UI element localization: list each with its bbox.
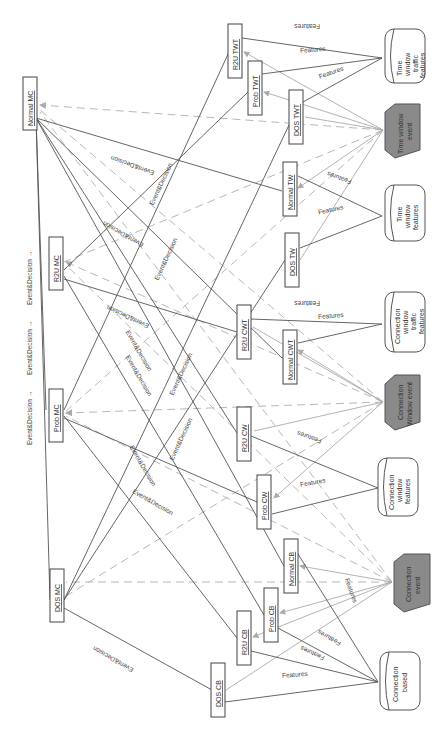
svg-text:Event&Decision: Event&Decision xyxy=(105,304,150,330)
svg-text:Features: Features xyxy=(300,45,327,54)
svg-text:Features: Features xyxy=(298,644,325,662)
clf-prob-cb: Prob CB xyxy=(264,588,278,642)
clf-r2u-cwt: R2U CWT xyxy=(237,305,251,359)
svg-text:based: based xyxy=(401,673,408,692)
clf-prob-cw: Prob CW xyxy=(257,475,271,529)
clf-r2u-cw: R2U CW xyxy=(237,407,251,461)
svg-text:Connection: Connection xyxy=(392,666,399,702)
svg-text:Prob TWT: Prob TWT xyxy=(252,75,259,107)
svg-text:R2U CB: R2U CB xyxy=(241,629,248,655)
svg-text:Connection: Connection xyxy=(394,308,401,344)
source-databases: Time window traffic features Time window… xyxy=(378,26,430,710)
svg-text:Normal TW: Normal TW xyxy=(287,174,294,210)
event-to-classifier-lines xyxy=(226,52,392,690)
mc-r2u: R2U MC xyxy=(49,237,63,290)
clf-normal-cb: Normal CB xyxy=(284,539,298,593)
db-time-window-traffic-features: Time window traffic features xyxy=(384,26,429,86)
clf-r2u-twt: R2U TWT xyxy=(228,24,242,78)
svg-text:→: → xyxy=(26,321,33,328)
clf-dos-twt: DOS TWT xyxy=(289,90,303,144)
clf-normal-cwt: Normal CWT xyxy=(283,330,297,384)
classifiers: R2U TWT Prob TWT DOS TWT Normal TW DOS T… xyxy=(211,24,303,717)
svg-text:→: → xyxy=(26,251,33,258)
svg-text:Event&Decision: Event&Decision xyxy=(153,236,179,281)
svg-text:Event&Decision: Event&Decision xyxy=(26,259,33,305)
svg-text:Time window: Time window xyxy=(397,112,404,154)
svg-text:Connection: Connection xyxy=(388,474,395,510)
hex-connection-event: Connection event xyxy=(394,554,430,612)
svg-text:Event&Decision: Event&Decision xyxy=(101,220,145,249)
svg-text:DOS TW: DOS TW xyxy=(289,248,296,276)
ids-architecture-diagram: Features Features Features Features Feat… xyxy=(0,0,445,736)
svg-text:Event&Decision: Event&Decision xyxy=(132,487,176,516)
svg-text:Connection: Connection xyxy=(405,566,412,602)
decision-edge-labels: Event&Decision Event&Decision Event&Deci… xyxy=(91,154,194,673)
svg-text:Features: Features xyxy=(325,170,352,186)
mc-normal: Normal MC xyxy=(23,77,37,130)
svg-text:event: event xyxy=(414,577,421,594)
svg-text:Features: Features xyxy=(282,670,309,679)
svg-text:Event&Decision: Event&Decision xyxy=(109,154,155,176)
svg-text:Connection: Connection xyxy=(397,384,404,420)
svg-text:Event&Decision: Event&Decision xyxy=(129,444,158,488)
svg-text:Prob CB: Prob CB xyxy=(268,605,275,632)
svg-text:Normal CWT: Normal CWT xyxy=(287,339,294,380)
svg-text:Normal CB: Normal CB xyxy=(288,551,295,586)
db-connection-based: Connection based xyxy=(380,652,420,710)
svg-text:window: window xyxy=(396,478,403,503)
svg-text:R2U TWT: R2U TWT xyxy=(232,38,239,70)
svg-text:features: features xyxy=(419,52,426,78)
svg-text:traffic: traffic xyxy=(410,313,417,330)
clf-dos-cb: DOS CB xyxy=(211,663,225,717)
svg-text:features: features xyxy=(404,478,411,504)
svg-text:R2U CW: R2U CW xyxy=(241,424,248,452)
svg-text:Prob CW: Prob CW xyxy=(261,491,268,520)
clf-r2u-cb: R2U CB xyxy=(237,611,251,665)
svg-text:Time: Time xyxy=(396,61,403,76)
clf-prob-twt: Prob TWT xyxy=(248,61,262,115)
svg-text:Event&Decision: Event&Decision xyxy=(26,399,33,445)
svg-text:DOS TWT: DOS TWT xyxy=(293,103,300,136)
svg-text:Features: Features xyxy=(317,203,344,215)
svg-text:features: features xyxy=(418,308,425,334)
db-time-window-features: Time window features xyxy=(385,185,425,241)
mc-prob: Prob MC xyxy=(49,389,63,442)
clf-normal-tw: Normal TW xyxy=(283,162,297,216)
svg-text:Features: Features xyxy=(318,64,345,80)
svg-text:DOS MC: DOS MC xyxy=(54,584,61,612)
svg-text:Features: Features xyxy=(294,23,320,30)
svg-text:Features: Features xyxy=(316,628,342,647)
legend-flow: Event&Decision → Event&Decision → Event&… xyxy=(26,251,33,446)
hex-time-window-event: Time window event xyxy=(385,104,420,158)
svg-text:→: → xyxy=(26,391,33,398)
svg-text:event: event xyxy=(406,123,413,140)
svg-text:Event&Decision: Event&Decision xyxy=(168,416,194,461)
svg-text:Event&Decision: Event&Decision xyxy=(91,645,135,674)
clf-dos-tw: DOS TW xyxy=(285,233,299,287)
svg-text:DOS CB: DOS CB xyxy=(215,680,222,707)
svg-text:Features: Features xyxy=(294,300,320,307)
svg-text:Normal MC: Normal MC xyxy=(27,91,34,126)
svg-text:Features: Features xyxy=(318,311,345,320)
svg-text:traffic: traffic xyxy=(412,55,419,72)
db-connection-window-features: Connection window features xyxy=(378,458,418,516)
svg-text:window: window xyxy=(402,310,409,335)
decision-lines xyxy=(36,52,289,690)
svg-text:features: features xyxy=(412,204,419,230)
svg-text:R2U CWT: R2U CWT xyxy=(241,318,248,351)
svg-text:Event&Decision: Event&Decision xyxy=(26,329,33,375)
hex-connection-window-event: Connection Window event xyxy=(385,375,420,430)
svg-text:Time: Time xyxy=(396,207,403,222)
svg-text:window: window xyxy=(404,52,411,77)
svg-text:R2U MC: R2U MC xyxy=(53,255,60,282)
svg-text:Features: Features xyxy=(299,476,326,487)
mc-dos: DOS MC xyxy=(50,569,64,622)
db-connection-window-traffic-features: Connection window traffic features xyxy=(385,292,425,352)
svg-text:Window event: Window event xyxy=(406,382,413,426)
svg-text:Features: Features xyxy=(295,430,322,446)
svg-text:Prob MC: Prob MC xyxy=(53,404,60,432)
svg-text:window: window xyxy=(404,204,411,229)
